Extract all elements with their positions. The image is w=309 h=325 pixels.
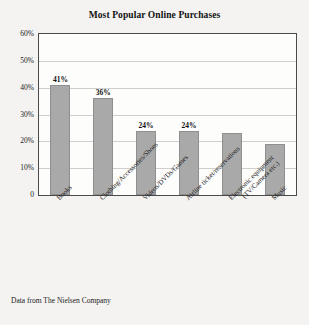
x-axis: BooksClothing/Accessories/ShoesVideos/DV… [39,197,296,277]
y-axis-tick-label: 40% [0,84,34,92]
y-axis-tick-label: 0 [0,191,34,199]
chart-title: Most Popular Online Purchases [0,10,309,20]
bar-slot: 41% [39,34,82,195]
source-caption: Data from The Nielsen Company [11,296,111,305]
bar-value-label: 41% [53,75,68,84]
y-axis-tick-label: 10% [0,164,34,172]
y-axis: 60%50%40%30%20%10%0 [0,33,34,196]
bar-value-label: 24% [139,121,154,130]
bar-value-label: 36% [96,88,111,97]
bar[interactable] [50,85,70,195]
chart-figure: Most Popular Online Purchases 60%50%40%3… [0,0,309,325]
bar-slot: 36% [82,34,125,195]
bar-value-label: 24% [181,121,196,130]
bar[interactable] [93,98,113,195]
y-axis-tick-label: 20% [0,137,34,145]
y-axis-tick-label: 30% [0,111,34,119]
y-axis-tick-label: 50% [0,57,34,65]
y-axis-tick-label: 60% [0,30,34,38]
